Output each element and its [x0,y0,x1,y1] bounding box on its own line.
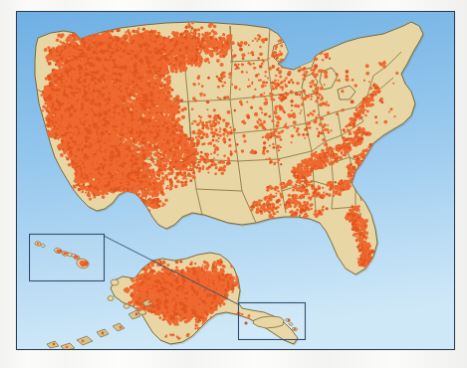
us-dot-distribution-map [17,12,454,349]
map-plate-frame [16,11,455,350]
